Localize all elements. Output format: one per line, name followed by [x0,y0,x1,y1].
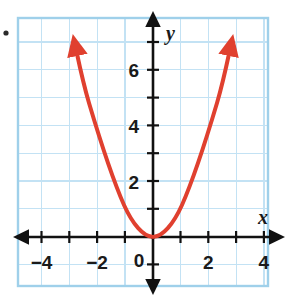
origin-label: 0 [134,250,145,271]
x-tick-label-neg2: −2 [86,252,108,273]
y-tick-label-2: 2 [128,172,139,193]
corner-bullet-mark [3,30,8,35]
x-tick-label-neg4: −4 [31,252,53,273]
x-tick-label-4: 4 [259,252,270,273]
y-tick-label-6: 6 [128,60,139,81]
grid-plate [18,18,268,286]
x-axis-label: x [257,206,268,228]
y-tick-label-4: 4 [128,116,139,137]
parabola-plot-svg: −4 −2 0 2 4 2 4 6 y x [0,0,286,304]
y-axis-label: y [164,22,175,45]
x-tick-label-2: 2 [203,252,214,273]
graph-figure: −4 −2 0 2 4 2 4 6 y x [0,0,286,304]
